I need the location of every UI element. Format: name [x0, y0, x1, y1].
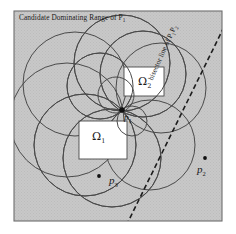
figure-canvas: Candidate Dominating Range of P1 Ω2 Ω1 p…	[0, 0, 236, 234]
omega1-label: Ω1	[92, 130, 105, 145]
diagram-svg	[0, 0, 236, 234]
candidate-range-title: Candidate Dominating Range of P1	[19, 13, 125, 23]
point-p2-label: p2	[197, 163, 206, 177]
point-p3-label: p3	[109, 174, 118, 188]
point-p1-label: p1	[124, 112, 132, 124]
point-p3-dot	[97, 174, 101, 178]
point-p2-dot	[203, 156, 207, 160]
